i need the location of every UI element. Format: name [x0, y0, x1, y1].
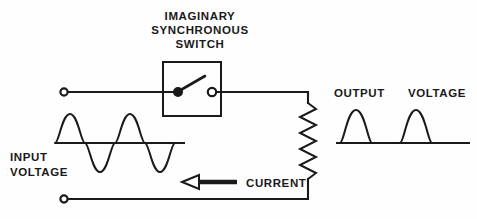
diagram-title-line-3: SWITCH — [176, 38, 225, 50]
output-voltage-label-word-1: OUTPUT — [334, 87, 385, 99]
current-label: CURRENT — [246, 177, 306, 189]
output-voltage-hump-1 — [340, 110, 372, 143]
switch-contact-icon[interactable] — [208, 88, 216, 96]
current-arrow-head-icon — [182, 175, 199, 189]
circuit-schematic-svg: IMAGINARY SYNCHRONOUS SWITCH INPUT VOLTA… — [0, 0, 477, 219]
input-terminal-top-icon — [60, 88, 67, 95]
output-voltage-label-word-2: VOLTAGE — [408, 87, 466, 99]
switch-lever-arm[interactable] — [179, 76, 205, 91]
input-voltage-label-line-1: INPUT — [10, 151, 48, 163]
input-voltage-label-line-2: VOLTAGE — [10, 166, 68, 178]
load-resistor-icon — [300, 103, 316, 179]
input-terminal-bottom-icon — [60, 195, 67, 202]
diagram-title-line-2: SYNCHRONOUS — [151, 24, 248, 36]
output-voltage-hump-2 — [400, 110, 432, 143]
circuit-diagram: IMAGINARY SYNCHRONOUS SWITCH INPUT VOLTA… — [0, 0, 477, 219]
wire-top-right — [216, 92, 308, 103]
diagram-title-line-1: IMAGINARY — [165, 10, 236, 22]
